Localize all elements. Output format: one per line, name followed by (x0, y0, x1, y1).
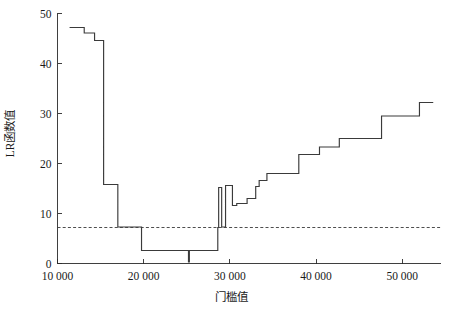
chart-figure: 01020304050 10 00020 00030 00040 00050 0… (0, 0, 452, 317)
y-tick-label: 50 (40, 8, 52, 20)
y-tick-label: 0 (46, 258, 52, 270)
x-tick-label: 50 000 (386, 270, 418, 282)
y-tick-label: 20 (40, 158, 52, 170)
y-tick-label: 10 (40, 208, 52, 220)
y-axis-title: LR函数值 (3, 109, 16, 158)
x-tick-label: 20 000 (128, 270, 160, 282)
y-tick-group: 01020304050 (40, 8, 62, 270)
x-tick-group: 10 00020 00030 00040 00050 000 (42, 259, 419, 282)
lr-threshold-line-chart: 01020304050 10 00020 00030 00040 00050 0… (0, 0, 452, 317)
x-tick-label: 30 000 (214, 270, 246, 282)
x-tick-label: 10 000 (42, 270, 74, 282)
lr-statistic-step-line (70, 28, 434, 263)
y-axis: 01020304050 (40, 8, 62, 270)
y-tick-label: 40 (40, 58, 52, 70)
data-series (70, 28, 434, 263)
x-tick-label: 40 000 (300, 270, 332, 282)
x-axis: 10 00020 00030 00040 00050 000 (42, 259, 441, 282)
y-tick-label: 30 (40, 108, 52, 120)
x-axis-title: 门槛值 (215, 290, 249, 303)
